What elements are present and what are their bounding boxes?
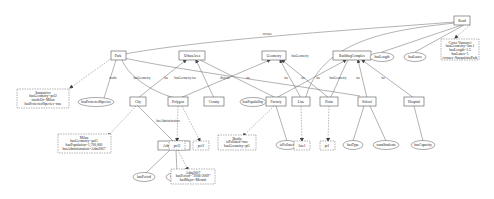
instance-node-pol2[interactable]: pol2 <box>169 141 185 150</box>
edge-label-crosses: crosses <box>262 32 272 36</box>
svg-text:hasCapacity: hasCapacity <box>414 143 432 147</box>
svg-text:hasMajor=Moratti: hasMajor=Moratti <box>180 178 206 182</box>
attribute-node[interactable]: numStudents <box>373 141 399 150</box>
class-node-hospital[interactable]: Hospital <box>404 97 424 106</box>
svg-text:crosses=SanquirinoPark: crosses=SanquirinoPark <box>443 56 478 60</box>
edge-label: isa <box>356 76 360 80</box>
edge-label: isa <box>246 76 250 80</box>
ontology-diagram: crosses inside hasGeometry isa hasGeomet… <box>0 0 494 199</box>
edge-label: inside <box>109 76 117 80</box>
edge-label: isa <box>284 76 288 80</box>
svg-text:School: School <box>362 100 372 104</box>
svg-text:Point: Point <box>325 100 333 104</box>
svg-text:hasProtectedSpecies=true: hasProtectedSpecies=true <box>25 102 62 106</box>
edge-label: isa <box>381 76 385 80</box>
class-node-factory[interactable]: Factory <box>266 97 286 106</box>
svg-text:hasLength: hasLength <box>375 55 390 59</box>
svg-text:City: City <box>135 100 141 104</box>
svg-text:hasProtectedSpecies: hasProtectedSpecies <box>81 100 111 104</box>
svg-text:Park: Park <box>115 54 122 58</box>
svg-text:hasLanes: hasLanes <box>408 55 422 59</box>
attribute-node[interactable]: hasPopulaDay <box>240 98 266 107</box>
attribute-node[interactable]: hasLanes <box>404 53 426 62</box>
edge-label: disjoint <box>220 76 230 80</box>
svg-text:Hospital: Hospital <box>408 100 420 104</box>
attribute-nodes: hasLength hasLanes hasProtectedSpecies h… <box>78 53 435 182</box>
instance-node-corsovannucci[interactable]: Corso Vannucci hasGeometry=line1 hasLeng… <box>441 39 479 60</box>
class-node-school[interactable]: School <box>358 97 376 106</box>
svg-text:numStudents: numStudents <box>377 143 396 147</box>
class-node-geometry[interactable]: Geometry <box>262 51 286 60</box>
svg-text:Road: Road <box>458 19 466 23</box>
svg-text:Geometry: Geometry <box>267 54 282 58</box>
attribute-node[interactable]: hasCapacity <box>411 141 435 150</box>
attribute-node[interactable]: hasPeriod <box>133 173 155 182</box>
svg-text:hasType: hasType <box>347 143 359 147</box>
edge-labels: crosses inside hasGeometry isa hasGeomet… <box>109 32 385 123</box>
attribute-node[interactable]: hasProtectedSpecies <box>78 98 114 107</box>
class-node-park[interactable]: Park <box>111 51 126 60</box>
class-node-line[interactable]: Line <box>292 97 310 106</box>
instance-node-adm2007[interactable]: Adm2007 hasPeriod="2006-2009" hasMajor=M… <box>171 169 215 184</box>
svg-text:Line: Line <box>298 100 305 104</box>
attribute-node[interactable]: hasType <box>343 141 363 150</box>
attribute-node[interactable]: hasLength <box>370 53 394 62</box>
svg-text:line1: line1 <box>298 144 305 148</box>
class-node-county[interactable]: County <box>204 97 224 106</box>
svg-text:isPolluted: isPolluted <box>280 143 295 147</box>
instance-node-line1[interactable]: line1 <box>294 141 310 150</box>
edge-label: hasGeometry isa <box>174 76 196 80</box>
edge-label: isa <box>164 76 168 80</box>
svg-text:hasAdministration=Adm2007: hasAdministration=Adm2007 <box>63 147 106 151</box>
edge-label: isa <box>301 76 305 80</box>
instance-node-basfla[interactable]: Basfla isPolluted=true hasGeometry=pt1 <box>218 135 256 150</box>
class-node-road[interactable]: Road <box>454 16 470 25</box>
svg-text:Factory: Factory <box>271 100 282 104</box>
svg-text:pt1: pt1 <box>325 144 330 148</box>
edge-label: hasGeometry <box>292 54 309 58</box>
class-nodes: Road Park UrbanArea Geometry BuildingCom… <box>111 16 470 150</box>
svg-text:hasGeometry=pt1: hasGeometry=pt1 <box>224 144 250 148</box>
instance-node-milan[interactable]: Milan hasGeometry=pol1 hasPopulation=1,7… <box>58 134 111 153</box>
svg-text:hasPeriod: hasPeriod <box>137 175 151 179</box>
class-node-buildingcomplex[interactable]: BuildingComplex <box>333 51 371 60</box>
edge-label: hasGeometry <box>330 76 347 80</box>
svg-text:hasPopulaDay: hasPopulaDay <box>243 100 264 104</box>
class-node-polygon[interactable]: Polygon <box>168 97 188 106</box>
svg-text:pol1: pol1 <box>198 144 205 148</box>
class-node-point[interactable]: Point <box>320 97 338 106</box>
svg-text:County: County <box>209 100 220 104</box>
class-node-urbanarea[interactable]: UrbanArea <box>179 51 205 60</box>
svg-text:Polygon: Polygon <box>172 100 184 104</box>
edge-label: hasGeometry <box>134 76 151 80</box>
svg-text:UrbanArea: UrbanArea <box>184 54 200 58</box>
edge-label: hasAdministration <box>156 119 180 123</box>
svg-text:pol2: pol2 <box>174 144 181 148</box>
edge-label: isa <box>316 76 320 80</box>
class-node-city[interactable]: City <box>130 97 146 106</box>
instance-node-pt1[interactable]: pt1 <box>320 141 335 150</box>
instance-node-pol1[interactable]: pol1 <box>193 141 209 150</box>
instance-node-sanquirico[interactable]: Sanquirico hasGeometry=pol2 insideOf=Mil… <box>17 89 69 108</box>
svg-text:BuildingComplex: BuildingComplex <box>339 54 365 58</box>
